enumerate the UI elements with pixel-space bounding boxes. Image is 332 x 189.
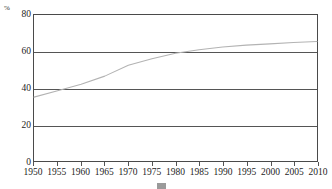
x-tick-mark-1960: [81, 162, 82, 166]
x-tick-mark-1990: [223, 162, 224, 166]
x-tick-mark-1965: [104, 162, 105, 166]
plot-area: [33, 14, 318, 162]
y-tick-label-60: 60: [5, 47, 31, 57]
series-line-urbanization-rate: [34, 15, 317, 161]
x-axis-tick-marks: [33, 162, 318, 166]
x-tick-mark-1975: [152, 162, 153, 166]
y-tick-label-80: 80: [5, 10, 31, 20]
y-tick-label-20: 20: [5, 121, 31, 131]
y-tick-label-40: 40: [5, 84, 31, 94]
x-tick-mark-2005: [294, 162, 295, 166]
x-tick-mark-1980: [176, 162, 177, 166]
x-tick-label-2010: 2010: [301, 167, 332, 178]
x-tick-mark-1970: [128, 162, 129, 166]
x-tick-mark-2000: [271, 162, 272, 166]
x-axis-tick-labels: 1950195519601965197019751980198519901995…: [0, 167, 327, 180]
chart-caption: [0, 181, 327, 189]
x-tick-mark-2010: [318, 162, 319, 166]
x-tick-mark-1950: [33, 162, 34, 166]
y-axis-tick-labels: 80 60 40 20 0: [0, 0, 31, 189]
x-tick-mark-1995: [247, 162, 248, 166]
x-tick-mark-1955: [57, 162, 58, 166]
legend-swatch-icon: [157, 183, 166, 189]
x-tick-mark-1985: [199, 162, 200, 166]
